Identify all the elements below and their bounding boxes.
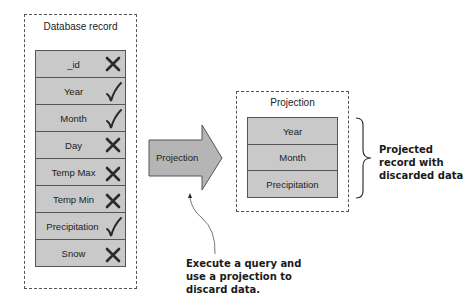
field-label: Day — [36, 132, 103, 158]
note-line: discarded data — [379, 169, 463, 182]
projection-row-year: Year — [247, 117, 338, 145]
field-label: Month — [36, 105, 103, 131]
projection-row-month: Month — [247, 144, 338, 171]
check-icon — [104, 78, 122, 104]
pointer-curve-icon — [180, 190, 220, 256]
field-label: Year — [36, 78, 103, 104]
field-label: Month — [248, 145, 337, 170]
field-row-snow: Snow — [35, 239, 126, 267]
field-label: Precipitation — [36, 213, 105, 239]
field-label: _id — [36, 51, 103, 77]
field-label: Temp Max — [36, 159, 103, 185]
arrow-label: Projection — [156, 152, 198, 163]
note-line: discard data. — [186, 283, 301, 296]
field-label: Year — [248, 118, 337, 144]
curly-brace-icon — [354, 116, 376, 200]
projected-record-note: Projected record with discarded data — [379, 143, 463, 182]
projection-row-precipitation: Precipitation — [247, 170, 338, 198]
check-icon — [104, 213, 122, 239]
cross-icon — [104, 240, 122, 266]
cross-icon — [104, 51, 122, 77]
cross-icon — [104, 159, 122, 185]
note-line: use a projection to — [186, 270, 301, 283]
field-label: Snow — [36, 240, 103, 266]
field-label: Precipitation — [248, 171, 337, 197]
field-row-day: Day — [35, 131, 126, 159]
database-record-title: Database record — [25, 21, 136, 32]
field-row-temp-max: Temp Max — [35, 158, 126, 186]
cross-icon — [104, 186, 122, 212]
query-note: Execute a query and use a projection to … — [186, 257, 301, 296]
note-line: Projected — [379, 143, 463, 156]
field-row-id: _id — [35, 50, 126, 78]
check-icon — [104, 105, 122, 131]
field-row-temp-min: Temp Min — [35, 185, 126, 213]
note-line: Execute a query and — [186, 257, 301, 270]
field-row-precipitation: Precipitation — [35, 212, 126, 240]
projection-title: Projection — [237, 97, 348, 108]
note-line: record with — [379, 156, 463, 169]
field-row-year: Year — [35, 77, 126, 105]
field-row-month: Month — [35, 104, 126, 132]
field-label: Temp Min — [36, 186, 103, 212]
cross-icon — [104, 132, 122, 158]
